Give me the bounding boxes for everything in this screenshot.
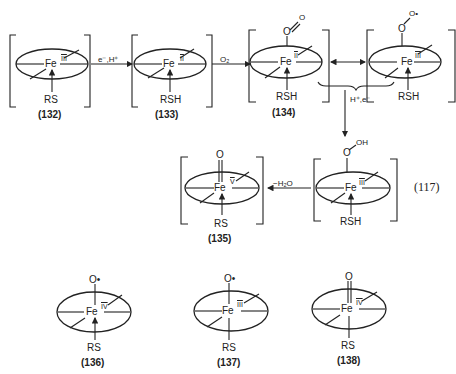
oxygen-radical-137: O• (224, 274, 235, 284)
oxidation-superoxo: III (415, 52, 421, 59)
arrow-label-3: H⁺,e⁻ (350, 96, 370, 104)
oxidation-132: III (61, 55, 67, 62)
fe-label-132: Fe (45, 59, 57, 69)
oxygen-135: O (216, 150, 224, 160)
ligand-132: RS (44, 95, 58, 105)
fe-label-136: Fe (86, 307, 98, 317)
oxidation-138: IV (356, 299, 363, 306)
fe-label-133: Fe (163, 59, 175, 69)
fe-label-hydroperoxo: Fe (345, 183, 357, 193)
ligand-134: RSH (276, 92, 297, 102)
oxidation-hydroperoxo: III (359, 179, 365, 186)
arrow-label-4: −H₂O (273, 180, 293, 188)
fe-label-superoxo: Fe (401, 57, 413, 67)
compound-id-135: (135) (208, 234, 231, 244)
oxidation-135: V (230, 178, 235, 185)
fe-label-135: Fe (214, 183, 226, 193)
oxygen-radical-superoxo: O• (409, 10, 418, 18)
oxygen-hydroperoxo: O (343, 148, 351, 158)
oxidation-137: III (237, 301, 243, 308)
arrow-label-2: O₂ (220, 56, 229, 64)
ligand-hydroperoxo: RSH (340, 217, 361, 227)
fe-label-137: Fe (222, 306, 234, 316)
compound-id-138: (138) (337, 356, 360, 366)
hydroxyl-hydroperoxo: OH (356, 139, 368, 147)
ligand-136: RS (87, 343, 101, 353)
arrow-label-1: e⁻,H⁺ (98, 56, 118, 64)
compound-id-137: (137) (217, 358, 240, 368)
ligand-137: RS (222, 343, 236, 353)
oxygen-radical-136: O• (89, 275, 100, 285)
oxidation-133: II (180, 55, 184, 62)
ligand-138: RS (341, 341, 355, 351)
compound-id-134: (134) (272, 108, 295, 118)
oxidation-134: II (294, 52, 298, 59)
ligand-135: RS (214, 219, 228, 229)
fe-label-138: Fe (341, 304, 353, 314)
oxygen-superoxo: O (398, 24, 406, 34)
fe-label-134: Fe (280, 57, 292, 67)
oxygen-134: O (283, 27, 291, 37)
oxygen-138: O (345, 272, 353, 282)
compound-id-132: (132) (38, 110, 61, 120)
oxygen2-134: O (299, 14, 305, 22)
ligand-133: RSH (160, 95, 181, 105)
oxidation-136: IV (101, 303, 108, 310)
compound-id-136: (136) (81, 358, 104, 368)
ligand-superoxo: RSH (398, 92, 419, 102)
equation-number: (117) (414, 180, 440, 195)
compound-id-133: (133) (155, 110, 178, 120)
